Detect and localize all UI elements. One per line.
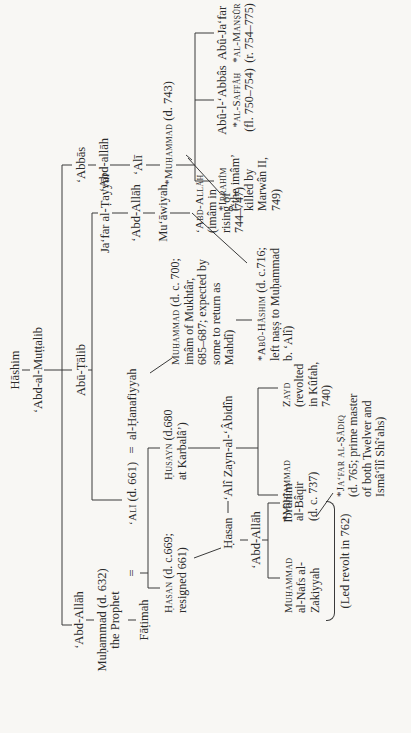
- node-fatimah: Fāṭimah: [137, 600, 151, 641]
- brace-revolt: [326, 501, 335, 621]
- node-hasan-ibn-ali: Ḥasan (d. c.669; resigned 661): [161, 533, 189, 613]
- node-abd-al-muttalib: ‘Abd-al-Muṭṭalib: [31, 327, 45, 413]
- node-hashim: Hāshim: [8, 351, 22, 390]
- node-husayn-ibn-ali: Ḥusayn (d.680 at Karbalâ’): [161, 409, 189, 480]
- genealogy-diagram: Hāshim ‘Abd-al-Muṭṭalib ‘Abd-Allāh Muḥam…: [0, 0, 411, 733]
- node-ali: ‘Alī (d. 661): [125, 462, 139, 525]
- node-abu-hashim: *Abû-Hâshim (d. c.716; left naṣṣ to Muḥa…: [254, 247, 296, 361]
- node-prophet-subtitle: the Prophet: [108, 591, 122, 648]
- node-muhammad-ibn-al-hanafiyyah: Muḥammad (d. c. 700; imâm of Mukhtâr, 68…: [168, 258, 237, 365]
- node-muhammad-al-nafs-al-zakiyyah: Muḥammad al-Nafs al- Zakiyyah: [281, 558, 322, 613]
- node-abbas: ‘Abbās: [74, 147, 88, 183]
- node-al-hanafiyyah: al-Ḥanafiyyah: [125, 369, 139, 441]
- node-muhammad-al-baqir: *Muḥammad al-Bâqir (d. c. 737): [279, 460, 320, 521]
- node-abd-allah-son-of-hasan: ‘Abd-Allāh: [249, 511, 263, 569]
- node-zayd: Zayd (revolted in Kûfah, 740): [279, 362, 334, 407]
- node-ali-son-of-abd-allah: ‘Alī: [131, 155, 145, 175]
- node-prophet-muhammad: Muḥammad (d. 632): [95, 568, 109, 671]
- tree-connector-lines: [0, 0, 411, 733]
- node-zayn-al-abidin: ‘Alî Zayn-al-‘Âbidîn: [221, 395, 235, 500]
- note-led-revolt: (Led revolt in 762): [338, 514, 352, 609]
- node-abd-allah-son-of-jafar: ‘Abd-Allāh: [129, 184, 143, 242]
- node-al-saffah: Abû-l-‘Abbâs *al-Saffâḥ (fl. 750–754): [215, 65, 257, 134]
- marriage-sign-ali-hanafiyyah: =: [125, 446, 139, 453]
- node-abd-allah-son-of-abbas: ‘Abd-allāh: [97, 138, 111, 192]
- node-hasan-ii: Ḥasan: [221, 517, 235, 548]
- node-abu-talib: Abū-Ṭālib: [74, 344, 88, 396]
- node-al-mansur: Abû-Ja‘far *al-Manṣûr (r. 754–775): [215, 3, 257, 63]
- node-ibrahim-the-imam: *Ibrahîm (‘the imâm’ killed by Marwân II…: [215, 154, 283, 211]
- node-muawiyah: Mu‘āwiyah: [156, 184, 170, 242]
- node-abd-allah-father: ‘Abd-Allāh: [72, 591, 86, 649]
- node-jafar-al-sadiq: *Ja‘far al-Ṣâdiq (d. 765; prime master o…: [333, 394, 388, 497]
- book-page: Hāshim ‘Abd-al-Muṭṭalib ‘Abd-Allāh Muḥam…: [0, 0, 411, 733]
- marriage-sign-fatimah-ali: =: [125, 569, 139, 576]
- node-muhammad-abbasid: *Muḥammad (d. 743): [161, 81, 175, 185]
